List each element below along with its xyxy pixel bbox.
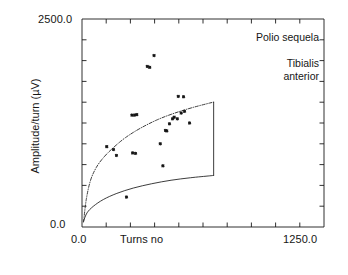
chart-figure: 2500.0 0.0 0.0 1250.0 Turns no Amplitude…	[0, 0, 348, 275]
data-point-marker	[148, 66, 151, 69]
data-point-marker	[125, 195, 128, 198]
annotation-muscle-line2: anterior	[283, 70, 319, 83]
data-point-marker	[146, 65, 149, 68]
chart-series-layer	[84, 54, 214, 222]
data-point-marker	[131, 151, 134, 154]
x-axis-ticks	[106, 223, 300, 228]
x-axis-min-tick-label: 0.0	[71, 233, 87, 245]
data-point-marker	[173, 115, 176, 118]
data-point-marker	[161, 164, 164, 167]
data-point-marker	[177, 95, 180, 98]
annotation-muscle: Tibialis anterior	[283, 57, 319, 82]
data-point-marker	[152, 54, 155, 57]
x-axis-ticks-top	[106, 19, 300, 24]
data-point-marker	[159, 142, 162, 145]
data-point-marker	[135, 113, 138, 116]
data-point-marker	[105, 145, 108, 148]
annotation-condition: Polio sequela	[256, 31, 319, 43]
curve-solid	[84, 175, 214, 221]
plot-axes-frame	[82, 19, 324, 227]
data-point-marker	[130, 113, 133, 116]
y-axis-ticks	[82, 40, 87, 206]
curve-dash-dot	[84, 102, 214, 222]
data-point-marker	[134, 152, 137, 155]
data-point-marker	[179, 111, 182, 114]
y-axis-ticks-right	[320, 40, 325, 206]
y-axis-title: Amplitude/turn (µV)	[29, 46, 41, 206]
data-point-marker	[165, 129, 168, 132]
annotation-muscle-line1: Tibialis	[283, 57, 319, 70]
y-axis-min-tick-label: 0.0	[50, 218, 66, 230]
y-axis-max-tick-label: 2500.0	[38, 13, 72, 25]
x-axis-title: Turns no	[120, 233, 163, 245]
data-point-marker	[182, 95, 185, 98]
x-axis-max-tick-label: 1250.0	[283, 233, 317, 245]
data-point-marker	[168, 122, 171, 125]
scatter-series	[105, 54, 191, 199]
data-point-marker	[115, 154, 118, 157]
data-point-marker	[188, 121, 191, 124]
data-point-marker	[176, 117, 179, 120]
